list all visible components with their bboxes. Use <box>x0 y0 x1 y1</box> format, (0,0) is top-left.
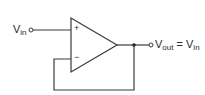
feedback-wire <box>54 45 134 90</box>
equals-sign: = <box>173 38 186 50</box>
noninverting-sign: + <box>74 24 79 33</box>
output-rhs-sub: in <box>193 43 199 52</box>
inverting-sign: − <box>74 53 79 62</box>
output-label: Vout = Vin <box>155 39 200 52</box>
input-label: Vin <box>13 24 27 37</box>
input-terminal <box>29 28 33 32</box>
input-label-sub: in <box>20 28 26 37</box>
output-terminal <box>149 43 153 47</box>
output-label-sub: out <box>162 43 173 52</box>
